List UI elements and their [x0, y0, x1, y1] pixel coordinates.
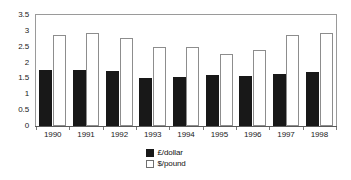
- x-tick-label: 1998: [311, 130, 328, 139]
- bar-group: [273, 15, 300, 126]
- y-tick-label: 1.5: [18, 74, 29, 82]
- x-tick-mark: [269, 127, 270, 130]
- bar-group: [106, 15, 133, 126]
- x-axis-line: [35, 126, 337, 127]
- bar-group: [206, 15, 233, 126]
- bar-gbp-per-dollar: [239, 76, 252, 126]
- x-tick-label: 1995: [211, 130, 228, 139]
- bar-gbp-per-dollar: [106, 71, 119, 127]
- bar-usd-per-pound: [120, 38, 133, 126]
- bar-group: [73, 15, 100, 126]
- legend-item: £/dollar: [146, 148, 206, 157]
- bar-usd-per-pound: [286, 35, 299, 126]
- x-tick-label: 1990: [44, 130, 61, 139]
- x-tick-mark: [36, 127, 37, 130]
- y-tick-label: 2: [25, 59, 29, 67]
- x-tick-label: 1997: [277, 130, 294, 139]
- x-tick-label: 1991: [77, 130, 94, 139]
- bars-layer: [36, 15, 336, 126]
- legend-item: $/pound: [146, 159, 206, 168]
- bar-gbp-per-dollar: [173, 77, 186, 126]
- x-tick-mark: [169, 127, 170, 130]
- bar-usd-per-pound: [86, 33, 99, 126]
- x-axis: 199019911992199319941995199619971998: [36, 130, 336, 144]
- bar-group: [39, 15, 66, 126]
- bar-group: [239, 15, 266, 126]
- x-tick-label: 1996: [244, 130, 261, 139]
- bar-gbp-per-dollar: [73, 70, 86, 126]
- x-tick-label: 1992: [111, 130, 128, 139]
- y-tick-label: 3.5: [18, 11, 29, 19]
- y-tick-label: 1: [25, 90, 29, 98]
- x-tick-mark: [103, 127, 104, 130]
- bar-usd-per-pound: [220, 54, 233, 126]
- bar-chart-figure: 00.511.522.533.5 19901991199219931994199…: [0, 0, 351, 180]
- chart-legend: £/dollar$/pound: [0, 148, 351, 168]
- y-tick-label: 0: [25, 122, 29, 130]
- bar-group: [306, 15, 333, 126]
- bar-group: [139, 15, 166, 126]
- legend-swatch-icon: [146, 160, 154, 168]
- y-tick-label: 3: [25, 27, 29, 35]
- bar-usd-per-pound: [320, 33, 333, 126]
- y-tick-label: 0.5: [18, 106, 29, 114]
- bar-usd-per-pound: [153, 47, 166, 126]
- x-tick-mark: [203, 127, 204, 130]
- x-tick-mark: [69, 127, 70, 130]
- x-tick-mark: [136, 127, 137, 130]
- x-tick-label: 1994: [177, 130, 194, 139]
- legend-label: £/dollar: [158, 148, 183, 157]
- bar-gbp-per-dollar: [306, 72, 319, 126]
- bar-gbp-per-dollar: [206, 75, 219, 126]
- y-tick-label: 2.5: [18, 43, 29, 51]
- x-tick-mark: [303, 127, 304, 130]
- y-axis: 00.511.522.533.5: [0, 14, 32, 127]
- bar-usd-per-pound: [186, 47, 199, 126]
- legend-label: $/pound: [158, 159, 186, 168]
- x-tick-mark: [336, 127, 337, 130]
- x-tick-label: 1993: [144, 130, 161, 139]
- x-tick-mark: [236, 127, 237, 130]
- bar-gbp-per-dollar: [273, 74, 286, 126]
- bar-gbp-per-dollar: [139, 78, 152, 126]
- bar-usd-per-pound: [53, 35, 66, 126]
- bar-gbp-per-dollar: [39, 70, 52, 126]
- bar-group: [173, 15, 200, 126]
- bar-usd-per-pound: [253, 50, 266, 126]
- legend-swatch-icon: [146, 149, 154, 157]
